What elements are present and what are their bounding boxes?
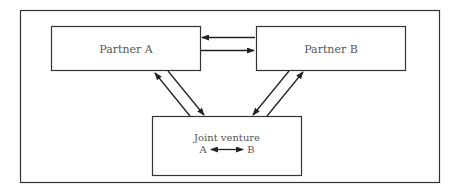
joint-venture-label: Joint venture bbox=[193, 132, 260, 143]
arrow-jv-to-b bbox=[267, 72, 303, 116]
jv-relation-right-label: B bbox=[247, 144, 254, 155]
arrow-b-to-jv bbox=[253, 71, 289, 115]
partner-a-box: Partner A bbox=[52, 27, 201, 71]
partner-a-label: Partner A bbox=[99, 43, 153, 56]
arrow-jv-to-a bbox=[155, 73, 190, 116]
joint-venture-box: Joint venture A B bbox=[153, 117, 302, 176]
partner-b-label: Partner B bbox=[304, 43, 358, 56]
arrow-a-to-jv bbox=[168, 71, 204, 115]
joint-venture-diagram: Partner A Partner B Joint venture A B bbox=[0, 0, 460, 189]
partner-b-box: Partner B bbox=[257, 27, 406, 71]
jv-relation-left-label: A bbox=[198, 144, 207, 155]
